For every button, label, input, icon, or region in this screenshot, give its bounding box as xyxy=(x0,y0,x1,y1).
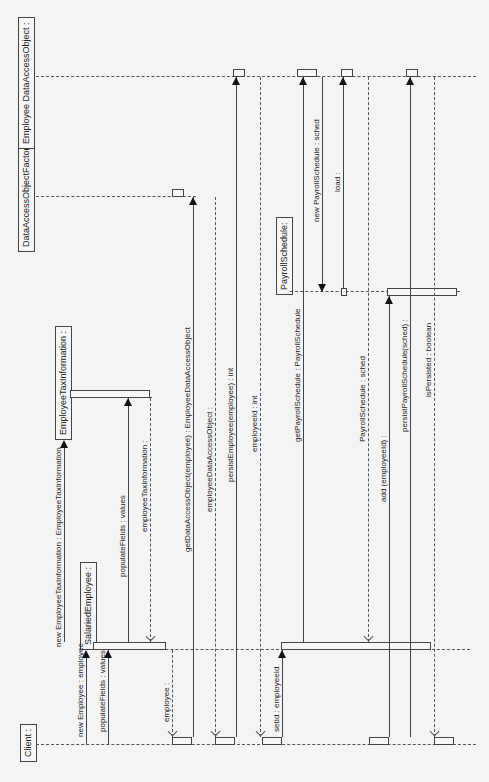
arrowhead-icon xyxy=(299,77,307,85)
msg-label: persistPayrollSchedule(sched) : xyxy=(400,320,409,433)
client-activation-5 xyxy=(434,737,454,745)
open-arrowhead-icon xyxy=(430,727,440,737)
open-arrowhead-icon xyxy=(211,727,221,737)
msg-label: load : xyxy=(333,172,342,192)
arrowhead-icon xyxy=(385,296,393,304)
msg-return-is-persisted xyxy=(434,77,435,737)
msg-label: getPayrollSchedule : PayrollSchedule xyxy=(293,309,302,442)
msg-get-payroll-schedule xyxy=(303,77,304,642)
arrowhead-icon xyxy=(339,77,347,85)
msg-persist-employee xyxy=(236,77,237,737)
salaried-activation xyxy=(93,642,166,650)
lifeline-payroll-schedule-box[interactable]: PayrollSchedule: xyxy=(276,217,293,295)
msg-return-employee-id xyxy=(260,77,261,737)
msg-label: new EmployeeTaxInformation : EmployeeTax… xyxy=(54,447,63,647)
msg-label: new Employee : employee xyxy=(76,643,85,737)
msg-label: setId : employeeId xyxy=(272,667,281,732)
msg-new-eti xyxy=(64,442,65,642)
msg-label: getDataAccessObject(employee) : Employee… xyxy=(183,327,192,552)
lifeline-salaried-employee-box[interactable]: SalariedEmployee : xyxy=(80,562,97,650)
open-arrowhead-icon xyxy=(256,727,266,737)
lifeline-client-box[interactable]: Client : xyxy=(20,724,37,762)
msg-label: populateFields : values xyxy=(118,495,127,577)
msg-label: isPersisted : boolean xyxy=(424,323,433,397)
msg-label: PayrollSchedule : sched xyxy=(358,356,367,442)
msg-label: persistEmployee(employee) : int xyxy=(226,368,235,482)
arrowhead-icon xyxy=(406,77,414,85)
payroll-activation-2 xyxy=(387,288,457,296)
arrowhead-icon xyxy=(232,77,240,85)
msg-label: employee : xyxy=(162,683,171,722)
edao-activation-4 xyxy=(406,69,418,77)
open-arrowhead-icon xyxy=(146,632,156,642)
edao-activation-2 xyxy=(297,69,317,77)
payroll-activation-1 xyxy=(341,288,347,296)
client-activation-4 xyxy=(369,737,389,745)
msg-set-id xyxy=(282,650,283,737)
msg-new-employee xyxy=(86,652,87,745)
msg-return-dao xyxy=(215,197,216,737)
client-activation-1 xyxy=(172,737,192,745)
edao-activation-1 xyxy=(233,69,245,77)
msg-return-employee xyxy=(172,650,173,737)
arrowhead-icon xyxy=(124,398,132,406)
arrowhead-icon xyxy=(318,284,326,292)
msg-populate-fields-eti xyxy=(128,398,129,642)
lifeline-dao-factory-box[interactable]: DataAccessObjectFactory : xyxy=(18,133,35,252)
salaried-activation-2 xyxy=(281,642,431,650)
eti-activation xyxy=(70,390,150,398)
msg-load xyxy=(343,77,344,288)
arrowhead-icon xyxy=(189,197,197,205)
edao-activation-3 xyxy=(341,69,353,77)
msg-get-dao xyxy=(193,197,194,737)
client-activation-2 xyxy=(215,737,235,745)
daof-activation xyxy=(172,189,184,197)
msg-label: employeeId : int xyxy=(250,396,259,452)
msg-label: employeeDataAccessObject : xyxy=(205,407,214,512)
msg-label: new PayrollSchedule : sched xyxy=(312,119,321,222)
msg-persist-payroll-schedule xyxy=(410,77,411,737)
client-lifeline xyxy=(36,744,476,745)
open-arrowhead-icon xyxy=(168,727,178,737)
msg-return-eti xyxy=(150,398,151,642)
sequence-diagram-canvas: Client : SalariedEmployee : EmployeeTaxI… xyxy=(0,0,489,782)
msg-label: employeeTaxInformation : xyxy=(140,440,149,532)
msg-label: populateFields : values xyxy=(98,650,107,732)
client-activation-3 xyxy=(262,737,282,745)
msg-label: add (employeeId) : xyxy=(379,435,388,502)
lifeline-employee-tax-information-box[interactable]: EmployeeTaxInformation : xyxy=(55,326,72,440)
msg-return-payroll-schedule xyxy=(368,77,369,642)
msg-populate-fields-employee xyxy=(108,650,109,745)
open-arrowhead-icon xyxy=(364,632,374,642)
arrowhead-icon xyxy=(278,650,286,658)
lifeline-employee-dao-box[interactable]: Employee DataAccessObject : xyxy=(18,17,35,149)
msg-add-employee-id xyxy=(389,296,390,737)
msg-new-payroll-schedule xyxy=(322,77,323,292)
